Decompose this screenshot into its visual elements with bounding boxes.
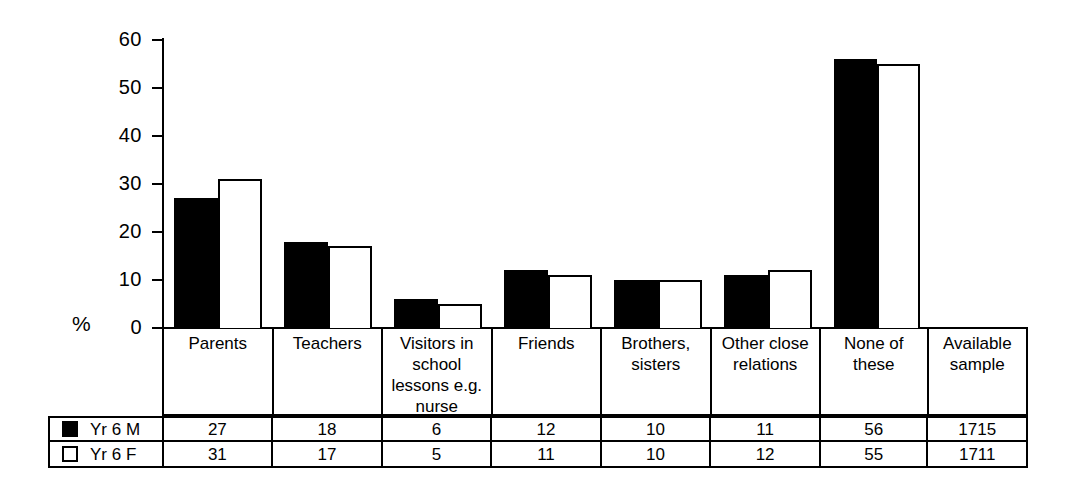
- bar-group: [383, 39, 493, 328]
- bar-yr6m: [394, 299, 438, 328]
- bar-yr6f: [877, 64, 920, 328]
- legend-label: Yr 6 M: [90, 421, 140, 438]
- y-axis-tick-30: [152, 183, 163, 185]
- bar-group: [823, 39, 931, 328]
- y-axis-tick-10: [152, 279, 163, 281]
- data-cell: 56: [821, 418, 929, 440]
- category-label-line: Other close: [712, 333, 820, 354]
- category-label-line: Parents: [164, 333, 272, 354]
- bar-yr6f: [438, 304, 482, 328]
- y-axis-tick-label-50: 50: [96, 77, 142, 97]
- y-axis-tick-label-0: 0: [96, 317, 142, 337]
- bar-group: [493, 39, 603, 328]
- bar-yr6m: [504, 270, 548, 328]
- category-label-line: sample: [929, 354, 1027, 375]
- bar-yr6m: [284, 242, 328, 328]
- bar-yr6m: [834, 59, 877, 328]
- category-label-line: Teachers: [274, 333, 382, 354]
- y-axis-tick-50: [152, 87, 163, 89]
- legend-cell: Yr 6 M: [50, 418, 164, 440]
- data-cell: 10: [602, 442, 712, 466]
- bar-yr6f: [218, 179, 262, 328]
- open-square-icon: [62, 446, 78, 462]
- data-cell: 10: [602, 418, 712, 440]
- category-cell: None of these: [821, 328, 929, 414]
- data-cell: 1711: [928, 442, 1026, 466]
- category-cell: Other closerelations: [712, 328, 822, 414]
- data-cell: 12: [711, 442, 821, 466]
- category-cell: Brothers,sisters: [602, 328, 712, 414]
- data-cell: 27: [164, 418, 274, 440]
- data-cell: 12: [492, 418, 602, 440]
- bar-group: [603, 39, 713, 328]
- plot-area: [163, 39, 1028, 328]
- bar-yr6f: [768, 270, 812, 328]
- bar-yr6f: [658, 280, 702, 328]
- bar-yr6f: [328, 246, 372, 328]
- data-cell: 11: [711, 418, 821, 440]
- y-axis-tick-label-40: 40: [96, 125, 142, 145]
- table-row: Yr 6 F31175111012551711: [50, 442, 1026, 466]
- data-table: Yr 6 M27186121011561715Yr 6 F31175111012…: [48, 416, 1028, 468]
- category-label-line: lessons e.g.: [383, 375, 491, 396]
- legend-label: Yr 6 F: [90, 446, 136, 463]
- y-axis-tick-20: [152, 231, 163, 233]
- data-cell: 17: [273, 442, 383, 466]
- data-cell: 11: [492, 442, 602, 466]
- bar-yr6m: [614, 280, 658, 328]
- category-label-line: Visitors in: [383, 333, 491, 354]
- category-cell: Visitors inschoollessons e.g.nurse: [383, 328, 493, 414]
- category-label-line: Brothers,: [602, 333, 710, 354]
- y-axis-tick-label-60: 60: [96, 29, 142, 49]
- category-label-line: Friends: [493, 333, 601, 354]
- data-cell: 18: [273, 418, 383, 440]
- category-cell: Parents: [164, 328, 274, 414]
- data-cell: 55: [821, 442, 929, 466]
- y-axis-tick-label-10: 10: [96, 269, 142, 289]
- legend-cell: Yr 6 F: [50, 442, 164, 466]
- category-label-line: Available: [929, 333, 1027, 354]
- y-axis-tick-label-30: 30: [96, 173, 142, 193]
- category-label-line: relations: [712, 354, 820, 375]
- data-cell: 5: [383, 442, 493, 466]
- category-cell: Availablesample: [929, 328, 1027, 414]
- bar-group: [713, 39, 823, 328]
- y-axis-tick-40: [152, 135, 163, 137]
- category-label-line: None of these: [821, 333, 927, 375]
- bar-group: [163, 39, 273, 328]
- data-cell: 31: [164, 442, 274, 466]
- y-axis-unit-label: %: [72, 313, 91, 334]
- category-label-line: school: [383, 354, 491, 375]
- category-label-line: nurse: [383, 396, 491, 414]
- y-axis-tick-60: [152, 39, 163, 41]
- data-cell: 1715: [928, 418, 1026, 440]
- filled-square-icon: [62, 421, 78, 437]
- data-cell: 6: [383, 418, 493, 440]
- table-row: Yr 6 M27186121011561715: [50, 418, 1026, 442]
- category-cell: Teachers: [274, 328, 384, 414]
- category-label-table: ParentsTeachersVisitors inschoollessons …: [162, 328, 1028, 416]
- bar-group: [273, 39, 383, 328]
- category-label-line: sisters: [602, 354, 710, 375]
- bar-yr6m: [174, 198, 218, 328]
- bar-yr6f: [548, 275, 592, 328]
- bar-chart-figure: % 6050403020100 ParentsTeachersVisitors …: [0, 0, 1075, 493]
- category-cell: Friends: [493, 328, 603, 414]
- bar-yr6m: [724, 275, 768, 328]
- y-axis-tick-label-20: 20: [96, 221, 142, 241]
